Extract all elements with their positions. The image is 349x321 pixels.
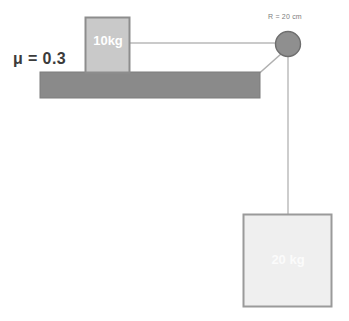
diagram-svg-layer <box>0 0 349 321</box>
block-on-table <box>86 18 130 73</box>
horizontal-surface <box>40 72 260 98</box>
hanging-block <box>244 215 332 307</box>
rope-diagonal <box>259 54 281 74</box>
pulley-icon <box>276 32 301 57</box>
physics-diagram: μ = 0.3 R = 20 cm 10kg 20 kg <box>0 0 349 321</box>
